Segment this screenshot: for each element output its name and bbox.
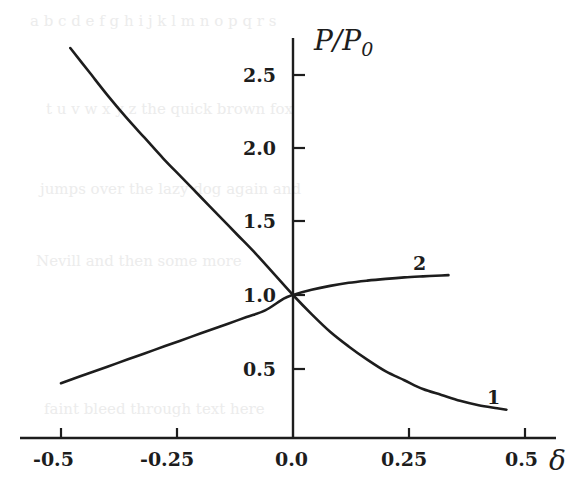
y-tick-label: 2.5 — [243, 64, 276, 86]
plot-canvas — [0, 0, 586, 501]
figure-plot-p-over-p0: a b c d e f g h i j k l m n o p q r s t … — [0, 0, 586, 501]
x-tick-label: -0.25 — [140, 448, 194, 470]
x-tick-label: 0.25 — [381, 448, 427, 470]
x-tick-label: 0.5 — [505, 448, 538, 470]
y-axis-ticks — [293, 75, 305, 369]
y-axis-title-subscript: 0 — [361, 38, 373, 60]
y-tick-label: 0.5 — [243, 358, 276, 380]
y-tick-label: 1.0 — [243, 284, 276, 306]
y-axis-title-text: P/P — [314, 24, 361, 57]
curve-1-label: 1 — [487, 386, 500, 408]
y-axis-title: P/P0 — [314, 24, 373, 60]
x-axis-title: δ — [549, 444, 566, 477]
x-tick-label: 0.0 — [275, 448, 308, 470]
y-tick-label: 1.5 — [243, 210, 276, 232]
x-tick-label: -0.5 — [33, 448, 74, 470]
curve-2-label: 2 — [413, 252, 426, 274]
y-tick-label: 2.0 — [243, 137, 276, 159]
